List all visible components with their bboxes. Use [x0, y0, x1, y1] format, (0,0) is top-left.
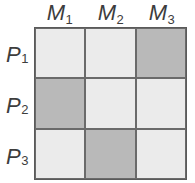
column-label-symbol: M [98, 0, 116, 25]
row-label-p3: P3 [6, 131, 34, 182]
grid-cell-p3-m1-empty [35, 129, 85, 179]
row-label-subscript: 1 [21, 52, 28, 65]
grid-cell-p3-m3-empty [136, 129, 186, 179]
column-label-symbol: M [47, 0, 65, 25]
row-label-p1: P1 [6, 29, 34, 80]
grid-cell-p2-m1-filled [35, 78, 85, 128]
row-label-symbol: P [6, 146, 20, 168]
grid-cell-p2-m3-empty [136, 78, 186, 128]
row-label-p2: P2 [6, 80, 34, 131]
grid-cell-p3-m2-filled [85, 129, 135, 179]
column-label-m3: M3 [136, 2, 187, 24]
grid-cell-p1-m2-empty [85, 28, 135, 78]
column-label-symbol: M [149, 0, 167, 25]
assignment-grid [34, 27, 187, 180]
grid-cell-p1-m1-empty [35, 28, 85, 78]
column-label-subscript: 2 [117, 12, 124, 27]
column-label-m2: M2 [85, 2, 136, 24]
row-label-symbol: P [6, 95, 20, 117]
row-label-symbol: P [6, 44, 20, 66]
column-label-subscript: 3 [168, 12, 175, 27]
column-label-subscript: 1 [66, 12, 73, 27]
column-label-m1: M1 [34, 2, 85, 24]
grid-cell-p2-m2-empty [85, 78, 135, 128]
grid-cell-p1-m3-filled [136, 28, 186, 78]
row-label-subscript: 2 [21, 103, 28, 116]
row-label-subscript: 3 [21, 154, 28, 167]
